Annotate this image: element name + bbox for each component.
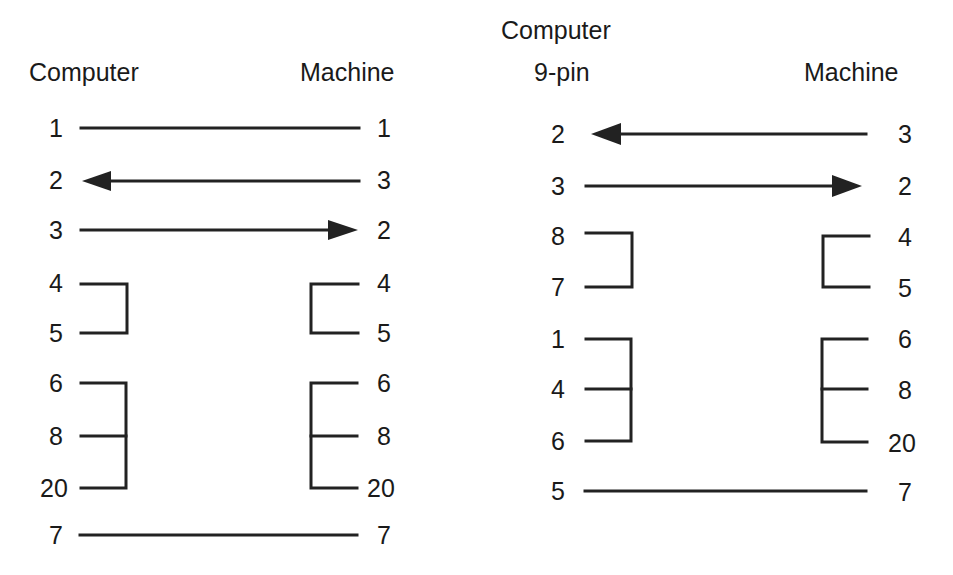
loop-4-5-machine [823, 236, 869, 287]
arrow-left-icon [591, 123, 621, 145]
arrow-right-icon [328, 220, 358, 240]
arrow-right-icon [832, 175, 862, 197]
loop-8-7-computer [586, 233, 632, 287]
loop-4-5-machine [311, 284, 358, 333]
arrow-left-icon [82, 171, 111, 191]
wiring-diagram [0, 0, 953, 575]
loop-4-5-computer [81, 284, 127, 333]
